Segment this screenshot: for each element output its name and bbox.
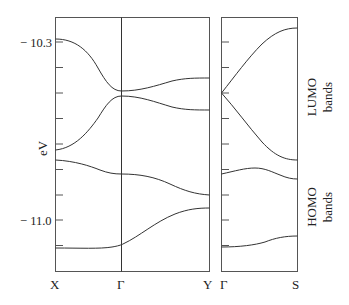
svg-text:bands: bands (320, 192, 335, 222)
lumo-bands-label: LUMO bands (304, 78, 335, 116)
right-homo-band-2 (222, 236, 298, 247)
left-panel-frame (56, 18, 210, 272)
band-structure-chart: − 10.3 − 11.0 eV X Γ Y Γ S LUMO bands HO… (0, 0, 349, 305)
right-lumo-band-2 (222, 93, 298, 160)
right-homo-band-1 (222, 168, 298, 179)
right-panel-frame (222, 18, 298, 272)
y-tick-label-lower: − 11.0 (20, 214, 52, 228)
k-label-x: X (50, 277, 60, 292)
k-label-y: Y (203, 277, 213, 292)
k-label-gamma-left: Γ (117, 277, 125, 292)
left-homo-band-1 (56, 160, 210, 195)
left-homo-band-2 (56, 208, 210, 248)
svg-text:bands: bands (320, 82, 335, 112)
svg-text:HOMO: HOMO (304, 187, 319, 227)
svg-text:LUMO: LUMO (304, 78, 319, 116)
homo-bands-label: HOMO bands (304, 187, 335, 227)
left-lumo-band-1 (56, 39, 210, 91)
k-label-s: S (292, 277, 299, 292)
right-y-ticks (222, 42, 230, 246)
left-lumo-band-2 (56, 96, 210, 150)
y-tick-label-upper: − 10.3 (20, 36, 52, 50)
k-label-gamma-right: Γ (220, 277, 228, 292)
y-axis-label: eV (35, 140, 50, 156)
right-lumo-band-1 (222, 28, 298, 93)
left-y-ticks (56, 42, 64, 246)
